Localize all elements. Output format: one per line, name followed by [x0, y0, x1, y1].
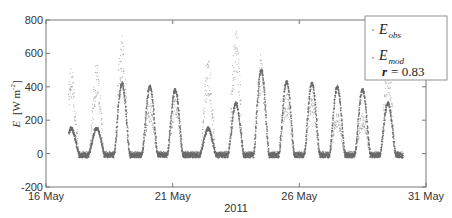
y-axis-label: E [W m-2]	[9, 80, 22, 128]
legend-obs: E	[378, 22, 388, 37]
y-tick-label: 400	[25, 81, 43, 93]
svg-text:E [W m-2]: E [W m-2]	[9, 80, 22, 128]
x-tick-label: 16 May	[28, 190, 65, 202]
y-tick-label: 200	[25, 114, 43, 126]
legend: Eobs Emod r= 0.83	[365, 16, 447, 80]
x-axis-label: 2011	[224, 202, 248, 214]
y-tick-label: 0	[37, 148, 43, 160]
y-tick-label: 800	[25, 14, 43, 26]
x-tick-label: 21 May	[155, 190, 192, 202]
data-points	[68, 31, 404, 158]
x-tick-label: 26 May	[281, 190, 318, 202]
y-tick-label: 600	[25, 47, 43, 59]
time-series-chart: -2000200400600800 16 May21 May26 May31 M…	[0, 0, 452, 218]
legend-mod: E	[378, 48, 388, 63]
x-tick-label: 31 May	[408, 190, 445, 202]
